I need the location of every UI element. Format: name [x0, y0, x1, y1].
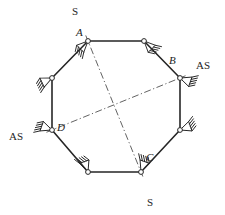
axis-d-b	[46, 76, 185, 133]
support-type-label-c: S	[147, 197, 153, 208]
vertex-label-d: D	[57, 122, 65, 133]
support-type-label-b: AS	[196, 60, 210, 71]
joint-node	[142, 39, 147, 44]
joint-node	[50, 76, 55, 81]
vertex-label-b: B	[169, 55, 176, 66]
symmetry-axes-group	[46, 35, 185, 177]
joint-node-b	[178, 76, 183, 81]
support-type-label-d: AS	[9, 131, 23, 142]
joint-node-c	[139, 170, 144, 175]
frame-member-b2-d	[52, 130, 88, 172]
vertex-label-a: A	[76, 27, 83, 38]
joint-node	[178, 128, 183, 133]
octagon-frame-diagram	[0, 0, 225, 215]
joint-node-a	[86, 39, 91, 44]
figure-canvas: ABCD SASSAS	[0, 0, 225, 215]
joint-node	[86, 170, 91, 175]
frame-members-group	[52, 41, 180, 172]
axis-a-c	[86, 35, 144, 177]
joint-node-d	[50, 128, 55, 133]
frame-member-l2-a	[52, 41, 88, 78]
support-type-label-a: S	[72, 6, 78, 17]
vertex-label-c: C	[146, 152, 153, 163]
